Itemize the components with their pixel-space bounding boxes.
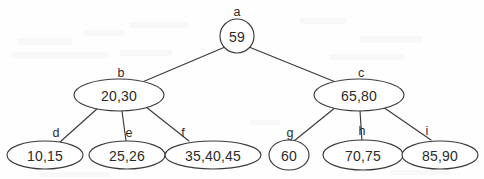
node-g-label: g [287,126,294,140]
node-f-value: 35,40,45 [185,148,241,164]
node-e[interactable]: 25,26 e [89,126,165,169]
tree-diagram-figure: 59 a 20,30 b 65,80 c 10,15 d 25,26 [0,0,484,179]
edge-c-g [294,107,336,141]
node-c-value: 65,80 [341,88,377,104]
node-g[interactable]: 60 g [269,126,309,170]
node-h-value: 70,75 [345,148,381,164]
node-i[interactable]: 85,90 i [402,124,478,169]
edge-a-b [140,47,225,83]
node-a-value: 59 [229,29,245,45]
node-f[interactable]: 35,40,45 f [165,126,261,169]
edge-a-c [249,47,338,83]
node-h-label: h [359,124,366,138]
node-e-value: 25,26 [109,148,145,164]
node-d-label: d [53,126,60,140]
node-h[interactable]: 70,75 h [323,124,403,170]
node-c[interactable]: 65,80 c [314,66,404,111]
node-d-value: 10,15 [27,148,63,164]
node-group: 59 a 20,30 b 65,80 c 10,15 d 25,26 [7,5,478,170]
node-b[interactable]: 20,30 b [74,66,164,111]
node-g-value: 60 [281,148,297,164]
node-b-label: b [118,66,125,80]
node-a-label: a [234,5,241,19]
node-a[interactable]: 59 a [220,5,254,53]
node-f-label: f [181,126,185,140]
node-e-label: e [126,126,133,140]
tree-diagram-canvas: 59 a 20,30 b 65,80 c 10,15 d 25,26 [0,0,484,179]
node-d[interactable]: 10,15 d [7,126,83,169]
edge-c-i [383,107,431,140]
node-b-value: 20,30 [101,88,137,104]
edge-b-d [60,108,98,142]
node-c-label: c [358,66,364,80]
node-i-label: i [426,124,429,138]
node-i-value: 85,90 [422,148,458,164]
